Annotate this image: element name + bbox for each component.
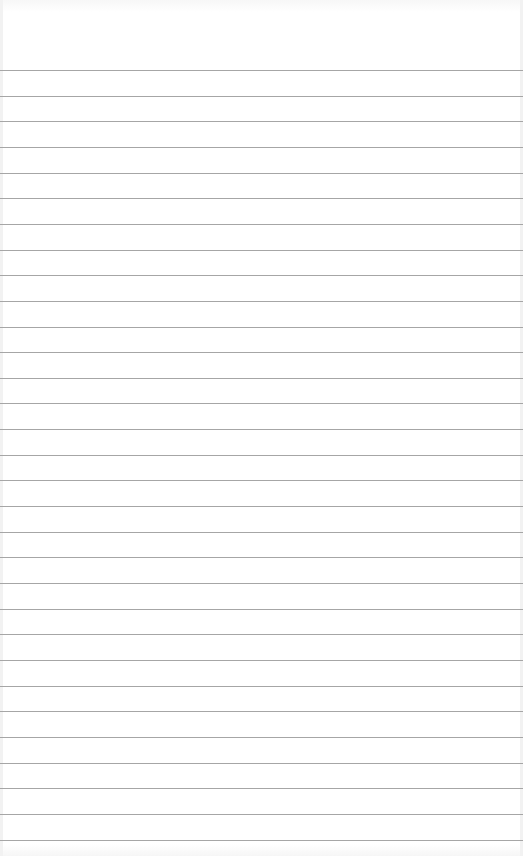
ruled-line (0, 583, 523, 584)
ruled-line (0, 198, 523, 199)
ruled-line (0, 429, 523, 430)
paper-left-edge (0, 0, 3, 856)
ruled-line (0, 686, 523, 687)
ruled-line (0, 224, 523, 225)
ruled-line (0, 532, 523, 533)
lined-paper-sheet (0, 0, 523, 856)
ruled-line (0, 840, 523, 841)
ruled-line (0, 609, 523, 610)
ruled-line (0, 378, 523, 379)
ruled-line (0, 480, 523, 481)
ruled-line (0, 121, 523, 122)
ruled-line (0, 557, 523, 558)
ruled-line (0, 737, 523, 738)
ruled-line (0, 147, 523, 148)
ruled-line (0, 275, 523, 276)
ruled-line (0, 327, 523, 328)
ruled-line (0, 70, 523, 71)
ruled-line (0, 301, 523, 302)
ruled-line (0, 634, 523, 635)
ruled-line (0, 96, 523, 97)
ruled-line (0, 814, 523, 815)
ruled-line (0, 173, 523, 174)
ruled-line (0, 711, 523, 712)
ruled-line (0, 506, 523, 507)
ruled-line (0, 660, 523, 661)
ruled-line (0, 403, 523, 404)
ruled-line (0, 352, 523, 353)
ruled-line (0, 250, 523, 251)
ruled-line (0, 763, 523, 764)
ruled-line (0, 788, 523, 789)
ruled-line (0, 455, 523, 456)
